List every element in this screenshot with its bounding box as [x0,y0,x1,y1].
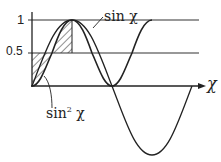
sin2-variable: χ [72,105,85,121]
sin-squared-label: sin2 χ [46,106,85,120]
plot-canvas [0,0,221,162]
y-tick-half: 0.5 [6,45,23,57]
sin-label-leader [93,17,103,28]
sin2-base: sin [46,105,67,121]
sin2-label-leader [44,76,52,108]
sine-squared-diagram: 1 0.5 sin χ sin2 χ χ [0,0,221,162]
x-axis-arrow-icon [198,83,206,89]
y-tick-one: 1 [17,13,24,26]
x-axis-label: χ [207,76,217,92]
sin-label: sin χ [104,9,138,23]
